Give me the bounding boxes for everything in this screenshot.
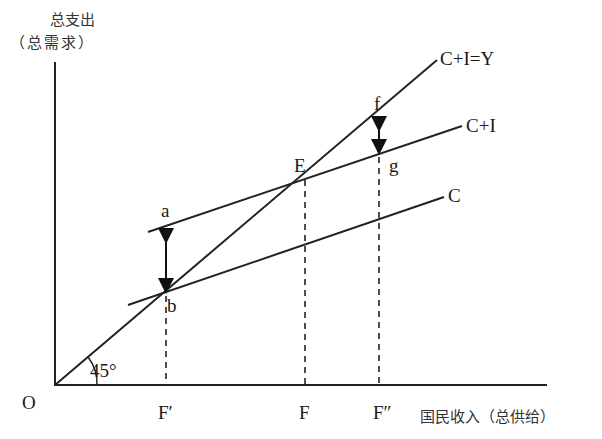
point-a-label: a bbox=[161, 200, 169, 222]
tick-f-prime: F′ bbox=[158, 402, 173, 424]
y-axis-label: 总支出 bbox=[50, 8, 95, 29]
angle-label: 45° bbox=[90, 360, 117, 382]
label-c-plus-i: C+I bbox=[466, 115, 496, 137]
label-c-plus-i-eq-y: C+I=Y bbox=[440, 48, 494, 70]
label-c: C bbox=[448, 185, 461, 207]
x-axis-label: 国民收入（总供给） bbox=[420, 405, 555, 426]
line-c bbox=[128, 197, 444, 305]
tick-f: F bbox=[299, 402, 310, 424]
point-e-label: E bbox=[294, 155, 306, 177]
point-g-label: g bbox=[389, 155, 399, 177]
tick-f-double-prime: F″ bbox=[373, 402, 391, 424]
point-f-label: f bbox=[374, 93, 380, 115]
y-axis-sublabel: （总需求） bbox=[10, 31, 95, 52]
origin-label: O bbox=[22, 392, 36, 414]
point-b-label: b bbox=[167, 295, 177, 317]
